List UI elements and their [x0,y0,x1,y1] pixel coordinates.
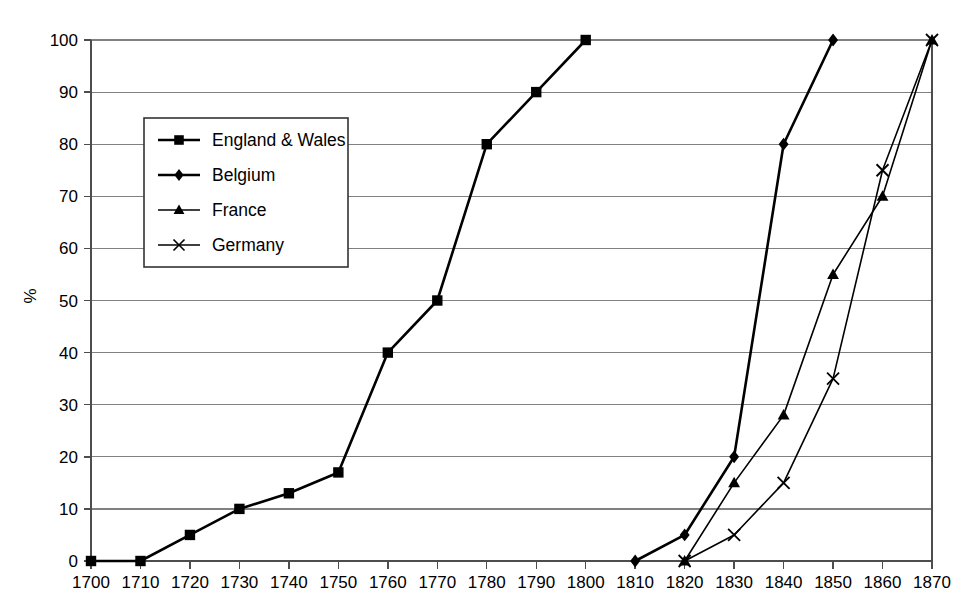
y-tick-label: 70 [59,187,78,206]
x-tick-labels-group: 1700171017201730174017501760177017801790… [72,573,951,592]
y-tick-label: 90 [59,83,78,102]
legend-label: France [212,200,266,220]
y-tick-label: 100 [50,31,78,50]
y-tick-marks-group [84,40,91,561]
marker-square [432,295,442,305]
y-tick-label: 50 [59,292,78,311]
x-tick-label: 1840 [765,573,803,592]
x-tick-label: 1770 [418,573,456,592]
x-tick-label: 1870 [913,573,951,592]
legend-label: Germany [212,235,284,255]
x-tick-label: 1750 [319,573,357,592]
y-tick-label: 0 [69,552,78,571]
y-tick-labels-group: 0102030405060708090100 [50,31,78,571]
legend-label: England & Wales [212,130,346,150]
marker-square [174,135,184,145]
x-tick-label: 1710 [122,573,160,592]
marker-square [234,504,244,514]
x-tick-label: 1830 [715,573,753,592]
x-tick-label: 1860 [864,573,902,592]
y-tick-label: 10 [59,500,78,519]
x-tick-label: 1700 [72,573,110,592]
marker-square [135,556,145,566]
x-tick-marks-group [91,561,932,569]
x-tick-label: 1740 [270,573,308,592]
y-tick-label: 30 [59,396,78,415]
x-tick-label: 1780 [468,573,506,592]
x-tick-label: 1790 [517,573,555,592]
marker-square [531,87,541,97]
marker-square [333,467,343,477]
y-tick-label: 80 [59,135,78,154]
marker-square [185,530,195,540]
x-tick-label: 1820 [666,573,704,592]
y-tick-label: 40 [59,344,78,363]
marker-square [86,556,96,566]
x-tick-label: 1720 [171,573,209,592]
marker-square [383,347,393,357]
x-tick-label: 1810 [616,573,654,592]
marker-square [482,139,492,149]
x-tick-label: 1760 [369,573,407,592]
marker-square [581,35,591,45]
marker-square [284,488,294,498]
line-chart: % 0102030405060708090100 170017101720173… [0,0,959,603]
x-tick-label: 1850 [814,573,852,592]
y-tick-label: 20 [59,448,78,467]
legend-label: Belgium [212,165,275,185]
x-tick-label: 1800 [567,573,605,592]
legend: England & WalesBelgiumFranceGermany [144,118,348,267]
y-tick-label: 60 [59,239,78,258]
x-tick-label: 1730 [220,573,258,592]
chart-canvas: 0102030405060708090100 17001710172017301… [0,0,959,603]
